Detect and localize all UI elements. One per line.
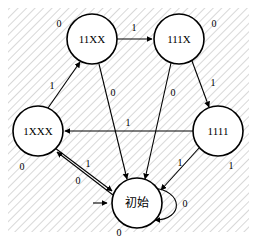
node-11XX[interactable]: 11XX: [67, 14, 117, 64]
edge-label-1XXX-to-11XX: 1: [50, 80, 55, 91]
node-1XXX-label: 1XXX: [23, 125, 52, 137]
node-111X-label: 111X: [167, 33, 191, 45]
edge-label-start-self-loop: 0: [183, 198, 188, 209]
edge-label-111X-to-1111: 1: [211, 77, 216, 88]
edge-label-1111-to-1XXX: 1: [126, 117, 131, 128]
node-1111[interactable]: 1111: [193, 106, 243, 156]
edge-label-1111-to-start: 1: [178, 157, 183, 168]
state-diagram-figure: 11XX 111X 1XXX 1111 初始 1 1 1 1 1 1 0 0 0…: [0, 0, 257, 240]
node-1111-label: 1111: [208, 125, 229, 137]
edge-label-11XX-to-111X: 1: [132, 22, 137, 33]
node-111X[interactable]: 111X: [154, 14, 204, 64]
label-near-1XXX: 0: [20, 161, 25, 172]
fsm-canvas: 11XX 111X 1XXX 1111 初始 1 1 1 1 1 1 0 0 0…: [0, 0, 257, 240]
edge-label-start-to-1XXX: 1: [86, 158, 91, 169]
node-11XX-label: 11XX: [79, 33, 106, 45]
edge-label-1XXX-to-start: 0: [76, 175, 81, 186]
label-near-1111: 1: [229, 160, 234, 171]
edge-label-11XX-to-start: 0: [111, 87, 116, 98]
label-near-111X: 0: [212, 18, 217, 29]
node-1XXX[interactable]: 1XXX: [13, 106, 63, 156]
label-near-11XX: 0: [57, 18, 62, 29]
label-near-start: 0: [117, 227, 122, 238]
node-start-label: 初始: [125, 196, 149, 210]
edge-label-111X-to-start: 0: [171, 87, 176, 98]
node-start[interactable]: 初始: [112, 178, 162, 228]
